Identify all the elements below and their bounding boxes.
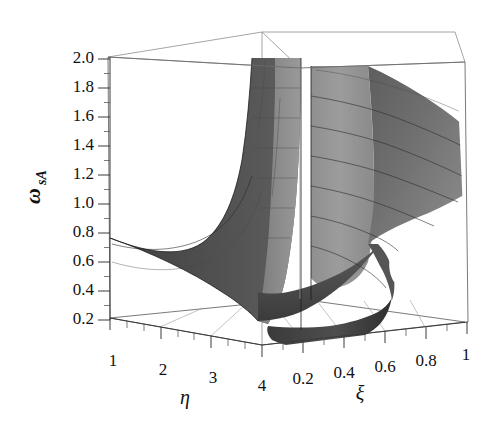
eta-tick-label: 2 <box>159 360 168 379</box>
xi-axis-title: ξ <box>356 382 365 404</box>
z-tick-label: 0.4 <box>73 280 95 299</box>
z-tick-label: 1.8 <box>73 77 94 96</box>
z-tick-label: 1.2 <box>73 164 94 183</box>
eta-axis-title: η <box>180 386 190 409</box>
xi-tick-label: 0.8 <box>415 351 436 370</box>
z-tick-label: 1.4 <box>73 135 95 154</box>
z-tick-label: 1.0 <box>73 193 94 212</box>
eta-tick-label: 3 <box>209 368 218 387</box>
z-axis-ticklabels: 2.0 1.8 1.6 1.4 1.2 1.0 0.8 0.6 0.4 0.2 <box>73 48 95 328</box>
plot-svg: 2.0 1.8 1.6 1.4 1.2 1.0 0.8 0.6 0.4 0.2 <box>0 0 488 428</box>
xi-tick-label: 0.6 <box>374 357 395 376</box>
omega-subscript: sA <box>34 170 49 186</box>
surface-right-tail <box>462 124 468 200</box>
omega-symbol: ω <box>20 188 45 204</box>
eta-tick-label: 1 <box>109 351 118 370</box>
eta-tick-label: 4 <box>258 376 267 395</box>
surface-geometry <box>110 52 468 348</box>
surface-right-branch <box>311 66 374 288</box>
z-axis: 2.0 1.8 1.6 1.4 1.2 1.0 0.8 0.6 0.4 0.2 <box>73 48 110 328</box>
z-tick-label: 0.8 <box>73 222 94 241</box>
xi-tick-label: 0.2 <box>292 369 313 388</box>
z-tick-label: 0.2 <box>73 309 94 328</box>
xi-tick-label: 0.4 <box>333 363 355 382</box>
z-tick-label: 1.6 <box>73 106 94 125</box>
surface-plot-figure: 2.0 1.8 1.6 1.4 1.2 1.0 0.8 0.6 0.4 0.2 <box>0 0 488 428</box>
omega-axis-title: ω sA <box>20 170 49 204</box>
z-tick-label: 2.0 <box>73 48 94 67</box>
xi-axis-ticklabels: 0.2 0.4 0.6 0.8 1 <box>292 345 470 388</box>
eta-axis-ticks <box>110 318 262 357</box>
eta-axis: 1 2 3 4 η <box>109 318 267 409</box>
xi-tick-label: 1 <box>462 345 471 364</box>
z-tick-label: 0.6 <box>73 251 94 270</box>
